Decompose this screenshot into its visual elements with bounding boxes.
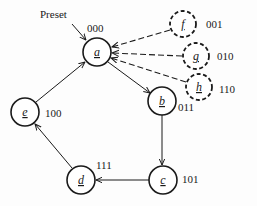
edge-a-to-b bbox=[108, 62, 150, 93]
node-code-g: 010 bbox=[217, 50, 234, 62]
node-code-f: 001 bbox=[206, 18, 223, 30]
edge-d-to-e bbox=[35, 124, 72, 168]
edge-h-to-a bbox=[111, 58, 186, 82]
edge-preset-to-a bbox=[72, 24, 86, 40]
node-code-h: 110 bbox=[219, 83, 236, 95]
edge-g-to-a bbox=[112, 53, 182, 56]
state-node-c: c 101 bbox=[149, 166, 199, 194]
state-node-f: f 001 bbox=[170, 11, 223, 37]
node-code-d: 111 bbox=[96, 159, 112, 171]
node-code-c: 101 bbox=[182, 173, 199, 185]
state-diagram: Preset a 000 b 011 c 101 d 111 e 100 f 0… bbox=[0, 0, 257, 206]
node-label-d: d bbox=[78, 173, 85, 187]
state-node-d: d 111 bbox=[67, 159, 112, 194]
preset-label: Preset bbox=[40, 8, 67, 20]
node-code-a: 000 bbox=[87, 22, 104, 34]
edge-f-to-a bbox=[112, 30, 170, 47]
node-code-e: 100 bbox=[45, 107, 62, 119]
node-label-h: h bbox=[196, 80, 202, 94]
state-node-h: h 110 bbox=[186, 74, 236, 100]
node-label-e: e bbox=[22, 105, 28, 119]
edge-e-to-a bbox=[36, 62, 85, 102]
node-label-a: a bbox=[94, 45, 100, 59]
node-label-g: g bbox=[193, 49, 199, 63]
node-label-c: c bbox=[160, 173, 166, 187]
node-label-b: b bbox=[159, 94, 165, 108]
node-code-b: 011 bbox=[178, 101, 194, 113]
state-node-g: g 010 bbox=[183, 43, 234, 69]
state-node-a: a 000 bbox=[83, 22, 111, 66]
